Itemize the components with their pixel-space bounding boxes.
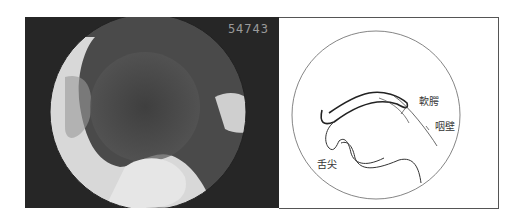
label-soft-palate: 軟腭 xyxy=(419,93,439,108)
label-tongue-tip: 舌尖 xyxy=(317,156,337,171)
endoscope-image-shapes xyxy=(25,17,279,208)
endoscopic-photo: 54743 xyxy=(25,17,279,208)
oral-cavity-sketch xyxy=(279,18,498,208)
frame-counter: 54743 xyxy=(228,22,269,36)
anatomical-diagram: 軟腭 咽壁 舌尖 xyxy=(279,17,499,209)
label-pharyngeal-wall: 咽壁 xyxy=(435,118,455,133)
